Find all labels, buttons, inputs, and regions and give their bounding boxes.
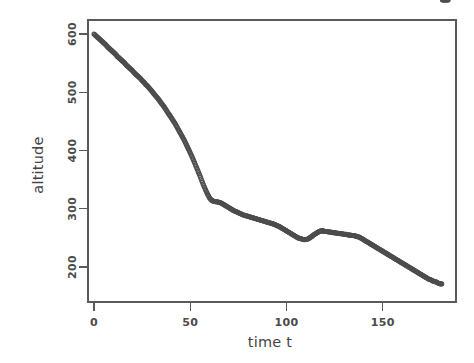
y-tick-label: 500 — [66, 80, 79, 104]
x-tick-label: 0 — [90, 316, 98, 329]
y-tick-label: 600 — [66, 22, 79, 46]
y-tick-label: 300 — [66, 197, 79, 221]
x-tick-label: 150 — [371, 316, 395, 329]
x-axis-title: time t — [248, 334, 292, 350]
y-tick-label: 400 — [66, 138, 79, 162]
x-tick-label: 50 — [182, 316, 198, 329]
y-tick-label: 200 — [66, 255, 79, 279]
y-axis-title: altitude — [30, 136, 46, 193]
figure-background — [0, 0, 474, 363]
x-tick-label: 100 — [274, 316, 298, 329]
scatter-plot-canvas: 050100150 200300400500600 time t altitud… — [0, 0, 474, 363]
chart-figure: 050100150 200300400500600 time t altitud… — [0, 0, 474, 363]
